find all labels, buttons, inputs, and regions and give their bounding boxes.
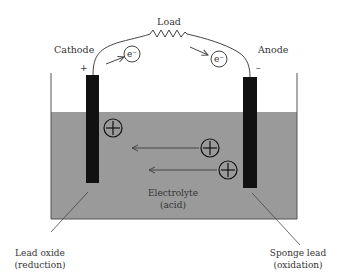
positive-ion-2: [201, 139, 219, 157]
anode-label: Anode: [257, 44, 289, 55]
electron-right-label: e⁻: [214, 54, 224, 64]
sponge-lead-label: Sponge lead: [270, 248, 327, 258]
anode-electrode: [243, 77, 257, 188]
resistor-load-icon: [150, 30, 187, 37]
load-label: Load: [157, 16, 181, 27]
electron-right-arrow-icon: [190, 47, 208, 55]
electron-left-label: e⁻: [127, 49, 137, 59]
cathode-electrode: [86, 75, 99, 183]
electrolyte-sublabel: (acid): [160, 200, 186, 210]
lead-oxide-sublabel: (reduction): [15, 260, 66, 270]
sponge-lead-sublabel: (oxidation): [273, 260, 322, 270]
cathode-label: Cathode: [54, 44, 95, 55]
lead-oxide-label: Lead oxide: [15, 248, 65, 258]
lead-acid-cell-diagram: Load Cathode + Anode – e⁻ e⁻ Electrolyte…: [0, 0, 341, 280]
positive-ion-3: [219, 161, 237, 179]
electrolyte-label: Electrolyte: [148, 188, 198, 198]
electron-left-arrow-icon: [106, 57, 124, 64]
cathode-sign: +: [80, 63, 88, 73]
electron-right: e⁻: [190, 47, 227, 67]
anode-sign: –: [256, 63, 261, 73]
positive-ion-1: [104, 119, 122, 137]
electron-left: e⁻: [106, 46, 140, 64]
wire-left: [93, 34, 150, 75]
